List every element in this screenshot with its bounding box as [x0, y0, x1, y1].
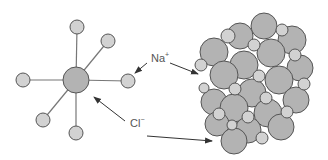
sodium-ion: [70, 20, 84, 34]
chloride-label: Cl−: [130, 116, 144, 129]
crystal-lattice: [195, 13, 313, 154]
sodium-ion: [16, 73, 30, 87]
octahedral-model: [16, 20, 135, 140]
sodium-label: Na+: [151, 51, 169, 64]
sodium-ion: [69, 126, 83, 140]
sodium-ion: [101, 34, 115, 48]
sodium-ion: [36, 113, 50, 127]
sodium-ion: [121, 74, 135, 88]
nacl-diagram: [0, 0, 328, 160]
chloride-ion: [63, 67, 89, 93]
pointer-arrows: [94, 63, 212, 141]
